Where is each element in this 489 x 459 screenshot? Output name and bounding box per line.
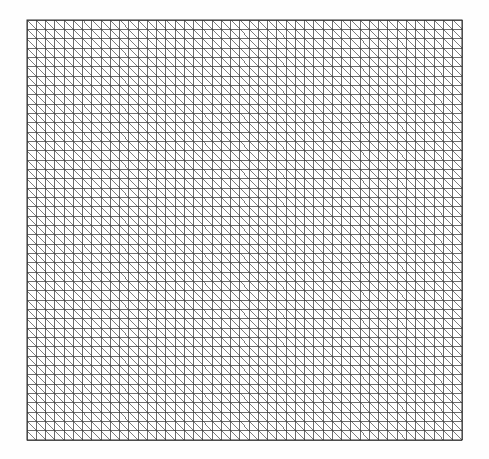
triangular-mesh-canvas: Triangular mesh grid — [0, 0, 489, 459]
mesh-figure: Triangular mesh grid — [0, 0, 489, 459]
